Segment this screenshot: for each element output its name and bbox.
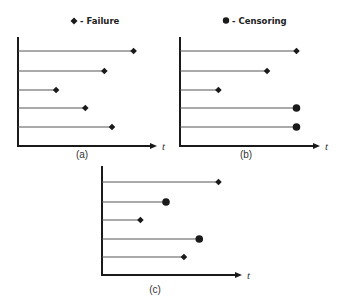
censoring-marker: [162, 198, 170, 206]
failure-marker: [215, 87, 222, 94]
censoring-dot-icon: [223, 17, 229, 23]
x-axis-label: t: [325, 140, 329, 152]
failure-marker: [137, 217, 144, 224]
failure-marker: [293, 48, 300, 55]
x-axis-label: t: [247, 269, 251, 281]
censoring-marker: [195, 235, 203, 243]
x-axis-arrow-icon: [235, 272, 242, 278]
failure-marker: [130, 48, 137, 55]
panel-c: t(c): [101, 166, 251, 295]
subject-row: [18, 87, 59, 94]
subject-row: [18, 68, 108, 75]
x-axis-arrow-icon: [150, 143, 157, 149]
subject-row: [18, 124, 115, 131]
failure-marker: [264, 68, 271, 75]
legend-failure: - Failure: [71, 16, 120, 26]
censoring-marker: [293, 104, 301, 112]
subject-row: [18, 48, 137, 55]
subject-row: [102, 217, 144, 224]
failure-marker: [101, 68, 108, 75]
survival-diagram: - Failure - Censoring t(a)t(b)t(c): [0, 0, 343, 305]
subject-row: [180, 48, 300, 55]
censoring-marker: [293, 123, 301, 131]
panel-label: (a): [76, 149, 88, 160]
subject-row: [102, 198, 170, 206]
subject-row: [180, 123, 300, 131]
failure-marker: [53, 87, 60, 94]
panel-a: t(a): [17, 37, 166, 160]
subject-row: [102, 254, 187, 261]
failure-marker: [215, 179, 222, 186]
subject-row: [180, 87, 222, 94]
failure-marker: [82, 105, 89, 112]
failure-marker: [109, 124, 116, 131]
subject-row: [180, 68, 270, 75]
legend-censoring: - Censoring: [223, 16, 287, 26]
panel-label: (b): [240, 149, 252, 160]
x-axis-label: t: [162, 140, 166, 152]
subject-row: [102, 179, 222, 186]
subject-row: [102, 235, 203, 243]
legend-failure-label: - Failure: [80, 16, 120, 26]
failure-marker: [181, 254, 188, 261]
subject-row: [180, 104, 300, 112]
subject-row: [18, 105, 89, 112]
x-axis-arrow-icon: [313, 143, 320, 149]
panel-label: (c): [149, 284, 161, 295]
failure-diamond-icon: [71, 18, 78, 25]
panel-b: t(b): [179, 37, 329, 160]
legend-censoring-label: - Censoring: [232, 16, 287, 26]
